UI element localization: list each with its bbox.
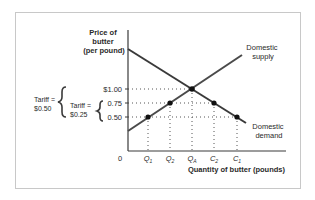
origin-label: 0	[118, 154, 122, 163]
point-c1	[234, 114, 239, 119]
demand-label: Domestic demand	[252, 122, 285, 140]
x-tick-label-q2: Q2	[166, 154, 175, 164]
point-c2	[211, 100, 216, 105]
supply-demand-chart: Price of butter (per pound) $1.00 0.75 0…	[0, 0, 315, 200]
x-tick-label-c2: C2	[210, 154, 218, 164]
x-tick-label-c1: C1	[233, 154, 241, 164]
x-axis-title: Quantity of butter (pounds)	[188, 165, 286, 174]
x-tick-label-q1: Q1	[144, 154, 153, 164]
demand-curve	[128, 49, 246, 123]
tariff-025-label: Tariff = $0.25	[70, 102, 93, 118]
y-tick-label-0-75: 0.75	[107, 99, 122, 108]
x-tick-label-qa: QA	[187, 154, 197, 164]
supply-curve	[128, 55, 242, 131]
point-q2	[167, 100, 172, 105]
y-tick-label-0-50: 0.50	[107, 113, 122, 122]
brace-tariff-025	[97, 101, 103, 121]
tariff-050-label: Tariff = $0.50	[34, 96, 57, 112]
y-tick-label-1-00: $1.00	[103, 85, 122, 94]
y-axis-title: Price of butter (per pound)	[83, 28, 125, 55]
point-qa-equilibrium	[189, 86, 195, 92]
point-q1	[145, 114, 150, 119]
supply-label: Domestic supply	[246, 43, 279, 61]
brace-tariff-050	[58, 87, 66, 117]
